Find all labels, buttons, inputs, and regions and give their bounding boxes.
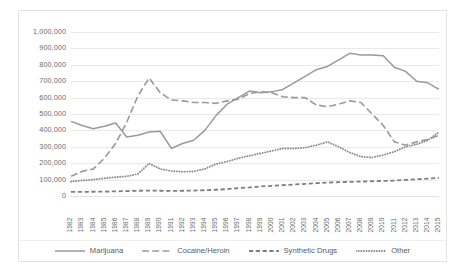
legend-label: Other — [391, 247, 410, 255]
x-axis-tick-label: 1982 — [68, 218, 75, 233]
legend-item-cocaine-heroin[interactable]: Cocaine/Heroin — [142, 247, 229, 255]
y-axis-tick-label: 300,000 — [14, 143, 66, 150]
legend-label: Synthetic Drugs — [284, 247, 338, 255]
x-axis-tick-label: 2001 — [279, 218, 286, 233]
line-key-dotted-icon — [356, 247, 386, 255]
x-axis-tick-label: 1984 — [90, 218, 97, 233]
line-key-long-dash-icon — [142, 247, 172, 255]
x-axis-tick-label: 2015 — [436, 218, 443, 233]
x-axis-tick-label: 1992 — [179, 218, 186, 233]
line-key-dash-icon — [249, 247, 279, 255]
legend-item-synthetic-drugs[interactable]: Synthetic Drugs — [249, 247, 338, 255]
x-axis-tick-label: 2006 — [335, 218, 342, 233]
x-axis-tick-label: 2008 — [358, 218, 365, 233]
x-axis-tick-label: 2009 — [369, 218, 376, 233]
x-axis-tick-label: 1994 — [201, 218, 208, 233]
x-axis-tick-label: 1990 — [157, 218, 164, 233]
legend-label: Cocaine/Heroin — [177, 247, 229, 255]
x-axis-tick-label: 2004 — [313, 218, 320, 233]
x-axis-tick-label: 2005 — [324, 218, 331, 233]
x-axis-tick-label: 1996 — [224, 218, 231, 233]
x-axis-tick-label: 1998 — [246, 218, 253, 233]
x-axis-tick-label: 2014 — [424, 218, 431, 233]
legend-item-marijuana[interactable]: Marijuana — [55, 247, 123, 255]
y-axis-labels: 1,000,000900,000800,000700,000600,000500… — [18, 10, 70, 262]
series-line-cocaine-heroin — [71, 78, 439, 176]
x-axis-tick-label: 1991 — [168, 218, 175, 233]
y-axis-tick-label: 800,000 — [14, 61, 66, 68]
x-axis-tick-label: 2011 — [391, 218, 398, 233]
series-line-marijuana — [71, 53, 439, 148]
y-axis-tick-label: 900,000 — [14, 45, 66, 52]
x-axis-tick-label: 1986 — [112, 218, 119, 233]
x-axis-tick-label: 2002 — [291, 218, 298, 233]
x-axis-labels: 1982198319841985198619871988198919901991… — [71, 197, 439, 233]
x-axis-tick-label: 1983 — [79, 218, 86, 233]
x-axis-tick-label: 1987 — [123, 218, 130, 233]
series-line-synthetic-drugs — [71, 178, 439, 192]
chart-legend: MarijuanaCocaine/HeroinSynthetic DrugsOt… — [19, 240, 446, 261]
y-axis-tick-label: 700,000 — [14, 78, 66, 85]
x-axis-tick-label: 2010 — [380, 218, 387, 233]
x-axis-tick-label: 1995 — [213, 218, 220, 233]
y-axis-tick-label: 600,000 — [14, 94, 66, 101]
x-axis-tick-label: 2012 — [402, 218, 409, 233]
y-axis-tick-label: 400,000 — [14, 127, 66, 134]
x-axis-tick-label: 1999 — [257, 218, 264, 233]
chart-screenshot: 1,000,000900,000800,000700,000600,000500… — [0, 0, 460, 274]
legend-item-other[interactable]: Other — [356, 247, 410, 255]
y-axis-tick-label: 0 — [14, 192, 66, 199]
x-axis-tick-label: 1997 — [235, 218, 242, 233]
x-axis-tick-label: 1988 — [135, 218, 142, 233]
line-key-solid-icon — [55, 247, 85, 255]
x-axis-tick-label: 2003 — [302, 218, 309, 233]
plot-area — [71, 32, 439, 196]
legend-label: Marijuana — [90, 247, 123, 255]
x-axis-tick-label: 2000 — [268, 218, 275, 233]
x-axis-tick-label: 1989 — [146, 218, 153, 233]
y-axis-tick-label: 200,000 — [14, 160, 66, 167]
y-axis-tick-label: 500,000 — [14, 110, 66, 117]
x-axis-tick-label: 2013 — [413, 218, 420, 233]
y-axis-tick-label: 100,000 — [14, 176, 66, 183]
y-axis-tick-label: 1,000,000 — [14, 28, 66, 35]
series-line-other — [71, 132, 439, 182]
series-lines — [71, 32, 439, 196]
x-axis-tick-label: 2007 — [346, 218, 353, 233]
x-axis-tick-label: 1993 — [190, 218, 197, 233]
x-axis-tick-label: 1985 — [101, 218, 108, 233]
